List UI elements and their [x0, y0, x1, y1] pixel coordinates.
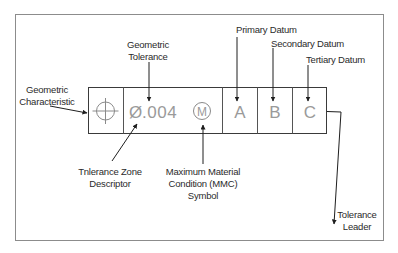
tolerance-value: .004: [142, 103, 177, 122]
tolerance-leader-line: [327, 112, 341, 225]
geometric-characteristic-arrow: [50, 106, 87, 113]
svg-text:Geometric: Geometric: [127, 39, 169, 50]
svg-text:Leader: Leader: [343, 221, 371, 232]
svg-text:Tnlerance Zone: Tnlerance Zone: [78, 166, 142, 177]
label-geometric-tolerance: Geometric Tolerance: [127, 39, 169, 62]
svg-text:Condition (MMC): Condition (MMC): [169, 178, 238, 189]
svg-text:Descriptor: Descriptor: [89, 178, 130, 189]
secondary-datum-letter: B: [269, 103, 280, 122]
svg-text:Symbol: Symbol: [188, 190, 219, 201]
label-mmc-symbol: Maximum Material Condition (MMC) Symbol: [166, 166, 240, 201]
label-tolerance-leader: Tolerance Leader: [337, 209, 376, 232]
label-secondary-datum: Secondary Datum: [271, 38, 344, 49]
feature-control-frame: Ø .004 M A B C: [89, 88, 327, 134]
svg-text:Characteristic: Characteristic: [19, 96, 75, 107]
label-geometric-characteristic: Geometric Characteristic: [19, 84, 75, 107]
svg-text:Maximum Material: Maximum Material: [166, 166, 240, 177]
diagram-canvas: Ø .004 M A B C Geometric Characteristic …: [0, 0, 398, 253]
frame-outline: [89, 88, 327, 134]
label-tolerance-zone-descriptor: Tnlerance Zone Descriptor: [78, 166, 142, 189]
diameter-symbol: Ø: [129, 103, 143, 122]
primary-datum-letter: A: [234, 103, 246, 122]
feature-control-frame-diagram: Ø .004 M A B C Geometric Characteristic …: [0, 0, 398, 253]
label-primary-datum: Primary Datum: [236, 24, 297, 35]
svg-text:Tolerance: Tolerance: [337, 209, 376, 220]
label-tertiary-datum: Tertiary Datum: [306, 54, 365, 65]
svg-text:Tolerance: Tolerance: [128, 51, 167, 62]
svg-text:Geometric: Geometric: [26, 84, 68, 95]
tertiary-datum-letter: C: [304, 103, 316, 122]
mmc-letter: M: [197, 105, 207, 119]
